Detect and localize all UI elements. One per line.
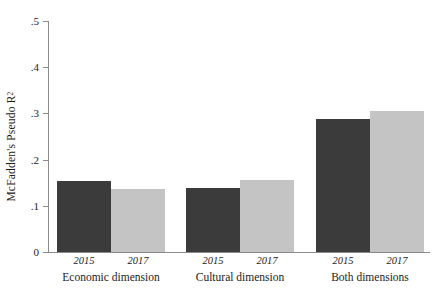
group-label-cultural-dimension: Cultural dimension <box>186 271 294 283</box>
bar-cultural-dimension-2017 <box>240 180 294 252</box>
bar-economic-dimension-2017 <box>111 189 165 252</box>
series-label-2015: 2015 <box>57 255 111 266</box>
plot-area: 20152017Economic dimension20152017Cultur… <box>0 0 438 293</box>
bar-both-dimensions-2015 <box>316 119 370 252</box>
series-label-2017: 2017 <box>370 255 424 266</box>
group-label-economic-dimension: Economic dimension <box>57 271 165 283</box>
bar-cultural-dimension-2015 <box>186 188 240 252</box>
series-label-2017: 2017 <box>111 255 165 266</box>
series-label-2015: 2015 <box>316 255 370 266</box>
series-label-2015: 2015 <box>186 255 240 266</box>
bar-economic-dimension-2015 <box>57 181 111 252</box>
group-label-both-dimensions: Both dimensions <box>316 271 424 283</box>
bar-both-dimensions-2017 <box>370 111 424 252</box>
series-label-2017: 2017 <box>240 255 294 266</box>
bar-chart: McFadden's Pseudo R2 0.1.2.3.4.5 2015201… <box>0 0 438 293</box>
